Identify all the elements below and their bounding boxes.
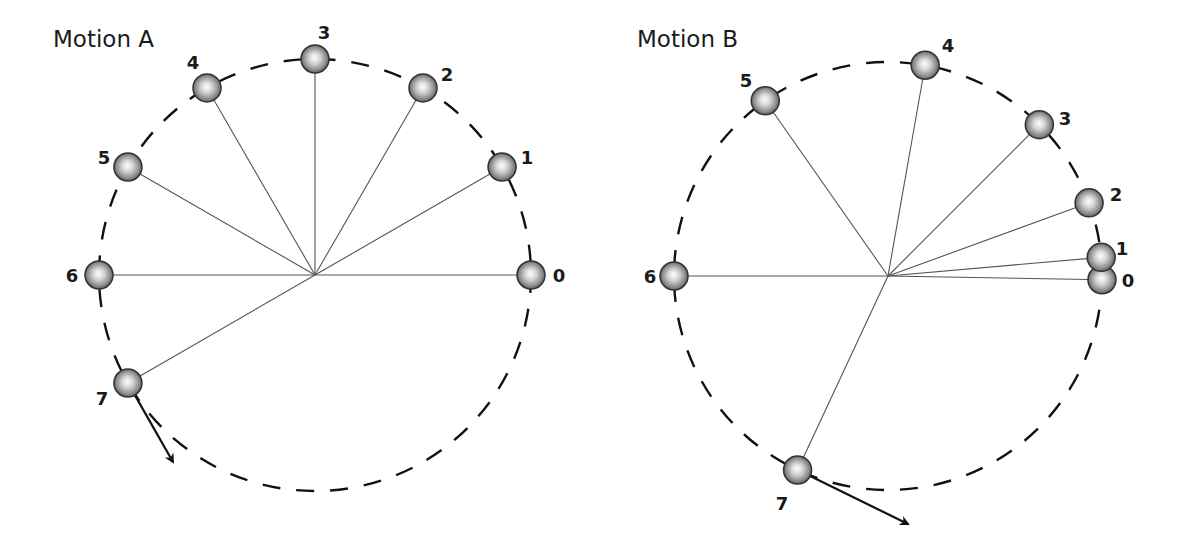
panel-motion-b: Motion B 01234567 — [637, 26, 1134, 524]
ball-position-7 — [114, 369, 142, 397]
position-label: 1 — [1116, 238, 1129, 259]
ball-position-4 — [911, 51, 939, 79]
position-label: 5 — [98, 147, 111, 168]
radius-line — [128, 275, 315, 383]
radius-line — [315, 88, 423, 275]
ball-position-1 — [488, 153, 516, 181]
radius-line — [888, 257, 1101, 276]
ball-position-0 — [517, 261, 545, 289]
position-label: 6 — [644, 266, 657, 287]
ball-position-6 — [85, 261, 113, 289]
radius-line — [207, 88, 315, 275]
radius-line — [888, 203, 1089, 276]
position-label: 5 — [740, 70, 753, 91]
position-label: 0 — [1122, 270, 1135, 291]
circular-motion-diagram: Motion A 01234567 Motion B 01234567 — [0, 0, 1184, 549]
ball-position-4 — [193, 74, 221, 102]
ball-position-2 — [1075, 189, 1103, 217]
ball-position-2 — [409, 74, 437, 102]
ball-position-1 — [1087, 243, 1115, 271]
position-label: 1 — [521, 147, 534, 168]
ball-position-5 — [114, 153, 142, 181]
position-label: 3 — [1059, 108, 1072, 129]
velocity-arrow-b — [810, 476, 908, 524]
ball-position-6 — [660, 262, 688, 290]
radius-line — [765, 101, 888, 276]
position-label: 7 — [96, 388, 109, 409]
radius-line — [888, 276, 1102, 280]
ball-position-5 — [751, 87, 779, 115]
ball-position-3 — [1025, 111, 1053, 139]
position-label: 3 — [318, 22, 331, 43]
panel-title-motion-a: Motion A — [53, 26, 154, 52]
panel-motion-a: Motion A 01234567 — [53, 22, 565, 491]
ball-position-7 — [784, 456, 812, 484]
radius-line — [315, 167, 502, 275]
position-label: 0 — [553, 265, 566, 286]
ball-position-3 — [301, 45, 329, 73]
position-label: 7 — [776, 493, 789, 514]
position-label: 2 — [1110, 184, 1123, 205]
position-label: 4 — [187, 52, 200, 73]
radius-line — [798, 276, 888, 470]
position-label: 2 — [441, 64, 454, 85]
radius-line — [128, 167, 315, 275]
panel-title-motion-b: Motion B — [637, 26, 738, 52]
radius-lines-a — [99, 59, 531, 383]
velocity-arrow-a — [135, 395, 173, 462]
position-label: 4 — [942, 35, 955, 56]
position-label: 6 — [66, 265, 79, 286]
